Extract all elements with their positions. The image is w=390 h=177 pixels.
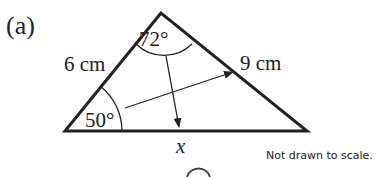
part-label: (a) [6, 11, 35, 40]
side-right-label: 9 cm [240, 51, 281, 75]
triangle-diagram: (a) 6 cm 9 cm x 72° 50° Not drawn to sca… [0, 0, 390, 177]
side-bottom-label: x [175, 134, 186, 158]
scale-note: Not drawn to scale. [266, 149, 373, 162]
angle-top-label: 72° [139, 27, 168, 51]
side-left-label: 6 cm [64, 52, 105, 76]
partial-circle [187, 168, 210, 177]
angle-left-label: 50° [85, 108, 114, 132]
arrow-right [125, 72, 233, 108]
